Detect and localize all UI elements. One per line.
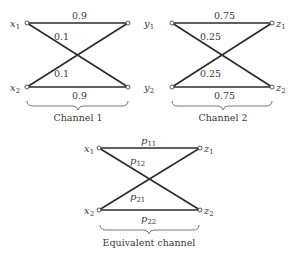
label-x1: x1 — [10, 18, 20, 31]
node-x2 — [25, 85, 29, 89]
prob-c2-cross-down: 0.25 — [200, 31, 221, 42]
node-eq-x1 — [97, 146, 101, 150]
prob-p22: p22 — [141, 213, 156, 226]
prob-c2-bottom: 0.75 — [214, 90, 235, 101]
node-eq-z1 — [198, 146, 202, 150]
node-z1 — [270, 21, 274, 25]
prob-c1-bottom: 0.9 — [72, 90, 87, 101]
prob-p12: p12 — [130, 155, 145, 168]
node-x1 — [25, 21, 29, 25]
caption-channel-1: Channel 1 — [53, 112, 102, 123]
label-y1: y1 — [143, 18, 154, 31]
cascade-channel-diagram: x1 x2 0.9 0.1 0.1 0.9 Channel 1 y1 y2 z1… — [0, 0, 296, 262]
node-eq-z2 — [198, 208, 202, 212]
label-z2: z2 — [275, 82, 286, 95]
brace-equivalent — [100, 225, 199, 234]
label-y2: y2 — [143, 82, 154, 95]
brace-channel-1 — [27, 101, 128, 110]
node-y2-out — [170, 85, 174, 89]
label-eq-z2: z2 — [203, 205, 214, 218]
node-y1-out — [170, 21, 174, 25]
equivalent-channel: x1 x2 z1 z2 p11 p12 p21 p22 Equivalent c… — [84, 135, 214, 248]
label-eq-x2: x2 — [84, 205, 94, 218]
channel-1: x1 x2 0.9 0.1 0.1 0.9 Channel 1 — [10, 10, 130, 123]
prob-c1-cross-up: 0.1 — [54, 68, 69, 79]
prob-p21: p21 — [130, 191, 145, 204]
label-x2: x2 — [10, 82, 20, 95]
prob-c2-top: 0.75 — [214, 10, 235, 21]
node-y2-in — [126, 85, 130, 89]
label-eq-z1: z1 — [203, 143, 214, 156]
prob-p11: p11 — [141, 135, 156, 148]
label-z1: z1 — [275, 18, 286, 31]
caption-channel-2: Channel 2 — [198, 112, 247, 123]
node-z2 — [270, 85, 274, 89]
caption-equivalent-channel: Equivalent channel — [103, 237, 196, 248]
prob-c1-cross-down: 0.1 — [54, 31, 69, 42]
prob-c1-top: 0.9 — [72, 10, 87, 21]
node-eq-x2 — [97, 208, 101, 212]
channel-2: z1 z2 0.75 0.25 0.25 0.75 Channel 2 — [170, 10, 286, 123]
label-eq-x1: x1 — [84, 143, 94, 156]
brace-channel-2 — [172, 101, 272, 110]
prob-c2-cross-up: 0.25 — [200, 68, 221, 79]
node-y1-in — [126, 21, 130, 25]
